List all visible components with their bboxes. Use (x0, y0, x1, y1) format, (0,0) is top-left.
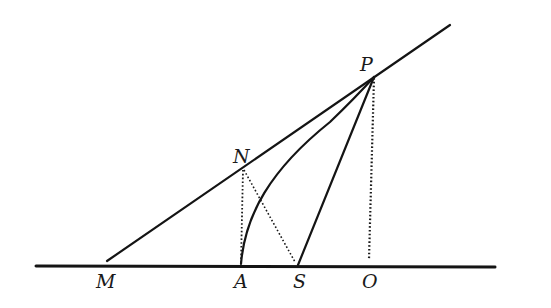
label-S: S (293, 270, 306, 292)
parabola-arc-AP (241, 77, 374, 264)
label-A: A (232, 270, 248, 292)
parabola-diagram: P N M A S O (0, 0, 551, 308)
perpendicular-PO (369, 78, 374, 259)
label-P: P (359, 53, 374, 75)
axis-line (36, 266, 495, 267)
focal-radius-SP (298, 77, 374, 265)
tangent-line-MP (107, 25, 450, 261)
label-N: N (232, 145, 251, 167)
label-O: O (362, 270, 378, 292)
label-M: M (95, 270, 116, 292)
